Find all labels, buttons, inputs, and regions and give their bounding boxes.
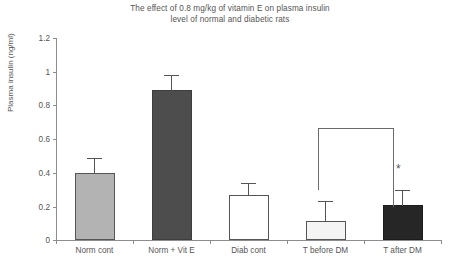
bar-norm-plus-vit-e — [152, 90, 192, 240]
x-axis-line — [56, 240, 442, 241]
y-tick-label-0.4: 0.4 — [4, 169, 50, 178]
error-bar-cap-norm-cont — [87, 158, 102, 159]
chart-title-line-2: level of normal and diabetic rats — [60, 14, 400, 25]
y-tick-label-0.6: 0.6 — [4, 135, 50, 144]
x-axis-label-norm-plus-vit-e: Norm + Vit E — [133, 246, 210, 255]
significance-bracket-top — [318, 128, 394, 129]
error-bar-cap-t-before-dm — [318, 201, 333, 202]
x-tick-mark-0 — [56, 240, 57, 244]
y-tick-label-0.2: 0.2 — [4, 203, 50, 212]
y-tick-mark-1.2 — [53, 38, 57, 39]
y-tick-mark-0.4 — [53, 173, 57, 174]
error-bar-line-norm-cont — [94, 158, 95, 174]
y-tick-label-group: 1.2 1 0.8 0.6 0.4 0.2 0 — [0, 0, 50, 274]
significance-bracket-left-leg — [318, 128, 319, 190]
y-tick-mark-0.2 — [53, 207, 57, 208]
error-bar-cap-norm-plus-vit-e — [164, 75, 179, 76]
y-tick-mark-1.0 — [53, 72, 57, 73]
bar-t-after-dm — [383, 205, 423, 240]
error-bar-line-t-after-dm — [402, 190, 403, 206]
x-tick-mark-2 — [210, 240, 211, 244]
chart-figure: The effect of 0.8 mg/kg of vitamin E on … — [0, 0, 449, 274]
significance-asterisk: * — [396, 163, 401, 175]
y-tick-label-1: 1 — [4, 68, 50, 77]
x-axis-label-norm-cont: Norm cont — [56, 246, 133, 255]
y-tick-mark-0.8 — [53, 105, 57, 106]
chart-title: The effect of 0.8 mg/kg of vitamin E on … — [60, 3, 400, 25]
y-tick-label-0.8: 0.8 — [4, 101, 50, 110]
x-tick-mark-1 — [133, 240, 134, 244]
bar-norm-cont — [75, 173, 115, 240]
error-bar-line-t-before-dm — [325, 201, 326, 222]
x-tick-mark-5 — [441, 240, 442, 244]
y-tick-label-1.2: 1.2 — [4, 34, 50, 43]
error-bar-line-diab-cont — [248, 183, 249, 196]
significance-bracket-right-leg — [393, 128, 394, 207]
x-tick-mark-4 — [364, 240, 365, 244]
x-axis-label-t-after-dm: T after DM — [364, 246, 441, 255]
bar-diab-cont — [229, 195, 269, 240]
y-tick-mark-0.6 — [53, 139, 57, 140]
x-axis-label-diab-cont: Diab cont — [210, 246, 287, 255]
x-axis-label-t-before-dm: T before DM — [287, 246, 364, 255]
x-tick-mark-3 — [287, 240, 288, 244]
chart-title-line-1: The effect of 0.8 mg/kg of vitamin E on … — [60, 3, 400, 14]
y-tick-label-0: 0 — [4, 236, 50, 245]
error-bar-line-norm-plus-vit-e — [171, 75, 172, 91]
error-bar-cap-t-after-dm — [395, 190, 410, 191]
error-bar-cap-diab-cont — [241, 183, 256, 184]
bar-t-before-dm — [306, 221, 346, 240]
